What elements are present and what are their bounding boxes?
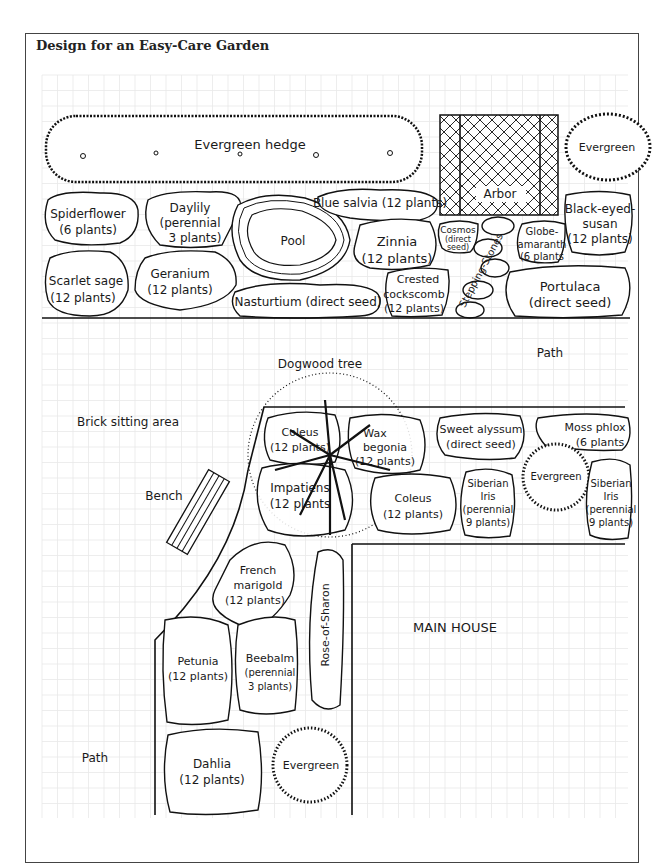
svg-text:Wax: Wax [363, 427, 387, 440]
evergreen-shrub-middle: Evergreen [523, 444, 589, 510]
bed-zinnia: Zinnia (12 plants) [354, 219, 436, 269]
svg-text:(12 plants): (12 plants) [179, 773, 244, 787]
svg-text:(12 plants): (12 plants) [362, 251, 433, 266]
svg-text:Globe-: Globe- [526, 226, 559, 237]
svg-text:Iris: Iris [480, 491, 495, 502]
bed-globe-amaranth: Globe- amaranth (6 plants [517, 221, 566, 263]
evergreen-shrub-bottom: Evergreen [273, 728, 347, 802]
svg-text:seed): seed) [447, 243, 469, 252]
svg-text:(direct seed): (direct seed) [446, 438, 516, 451]
svg-text:Zinnia: Zinnia [377, 234, 418, 249]
svg-text:Coleus: Coleus [395, 492, 432, 505]
svg-text:Siberian: Siberian [591, 478, 632, 489]
svg-text:9 plants): 9 plants) [589, 517, 633, 528]
svg-text:susan: susan [582, 217, 617, 231]
main-house-label: MAIN HOUSE [413, 620, 497, 635]
svg-text:Moss phlox: Moss phlox [564, 421, 626, 434]
svg-text:(12 plants): (12 plants) [383, 508, 443, 521]
svg-text:(perennial: (perennial [463, 504, 514, 515]
bed-geranium: Geranium (12 plants) [135, 251, 236, 310]
evergreen-shrub-top: Evergreen [566, 114, 650, 180]
svg-text:Crested: Crested [397, 273, 440, 286]
svg-text:(6 plants: (6 plants [576, 436, 625, 449]
bench [167, 470, 230, 555]
bed-nasturtium: Nasturtium (direct seed) [232, 284, 381, 318]
arbor-label: Arbor [483, 187, 516, 201]
svg-text:(direct seed): (direct seed) [529, 295, 611, 310]
svg-text:Blue salvia (12 plants): Blue salvia (12 plants) [313, 196, 447, 210]
bed-scarlet-sage: Scarlet sage (12 plants) [45, 251, 128, 316]
svg-text:(12 plants): (12 plants) [50, 291, 115, 305]
svg-text:Beebalm: Beebalm [246, 652, 295, 665]
svg-text:(perennial: (perennial [245, 667, 296, 678]
svg-text:Geranium: Geranium [150, 267, 209, 281]
svg-text:Pool: Pool [281, 234, 306, 248]
svg-text:(12 plants): (12 plants) [147, 283, 212, 297]
svg-text:(12 plants): (12 plants) [567, 232, 632, 246]
bed-cosmos: Cosmos (direct seed) [438, 221, 478, 253]
svg-text:Daylily: Daylily [170, 201, 211, 215]
svg-text:Petunia: Petunia [177, 655, 218, 668]
bed-border-left [248, 407, 264, 470]
svg-text:(12 plants): (12 plants) [355, 455, 415, 468]
svg-text:3 plants): 3 plants) [248, 681, 292, 692]
bed-wax-begonia: Wax begonia (12 plants) [348, 414, 425, 473]
svg-text:Nasturtium (direct seed): Nasturtium (direct seed) [234, 295, 381, 309]
svg-text:marigold: marigold [234, 579, 283, 592]
bed-spiderflower: Spiderflower (6 plants) [45, 192, 138, 245]
svg-text:3 plants): 3 plants) [169, 231, 222, 245]
bed-siberian-iris-1: Siberian Iris (perennial 9 plants) [461, 469, 515, 538]
svg-text:Evergreen: Evergreen [530, 471, 581, 482]
svg-text:Scarlet sage: Scarlet sage [49, 274, 123, 288]
svg-text:Dahlia: Dahlia [193, 757, 231, 771]
svg-text:(12 plants): (12 plants) [168, 670, 228, 683]
svg-text:Black-eyed-: Black-eyed- [565, 202, 636, 216]
svg-text:Evergreen: Evergreen [283, 759, 339, 772]
bed-sweet-alyssum: Sweet alyssum (direct seed) [437, 413, 524, 459]
bed-black-eyed-susan: Black-eyed- susan (12 plants) [565, 192, 636, 256]
bed-dahlia: Dahlia (12 plants) [164, 729, 261, 814]
bed-siberian-iris-2: Siberian Iris (perennial 9 plants) [586, 459, 637, 539]
bed-petunia: Petunia (12 plants) [163, 617, 232, 725]
svg-text:(perennial: (perennial [586, 504, 637, 515]
svg-text:Rose-of-Sharon: Rose-of-Sharon [319, 583, 332, 666]
svg-text:Spiderflower: Spiderflower [50, 207, 126, 221]
svg-text:begonia: begonia [363, 441, 407, 454]
dogwood-label: Dogwood tree [278, 357, 362, 371]
svg-text:amaranth: amaranth [518, 239, 567, 250]
bed-daylily: Daylily (perennial 3 plants) [146, 192, 241, 248]
svg-text:Evergreen: Evergreen [579, 141, 635, 154]
brick-sitting-area-label: Brick sitting area [77, 415, 179, 429]
svg-text:(12 plants): (12 plants) [270, 441, 330, 454]
bench-label: Bench [145, 489, 182, 503]
svg-text:(12 plants: (12 plants [270, 497, 331, 511]
svg-text:French: French [240, 564, 277, 577]
arbor: Arbor [440, 115, 558, 215]
bed-crested-cockscomb: Crested cockscomb (12 plants) [383, 268, 449, 317]
svg-text:Portulaca: Portulaca [540, 279, 601, 294]
svg-text:cockscomb: cockscomb [383, 288, 444, 301]
svg-text:Sweet alyssum: Sweet alyssum [440, 423, 523, 436]
svg-text:(6 plants): (6 plants) [59, 223, 117, 237]
svg-text:9 plants): 9 plants) [466, 517, 510, 528]
hedge-label: Evergreen hedge [194, 137, 305, 152]
path-label-bottom: Path [82, 751, 108, 765]
svg-text:(6 plants: (6 plants [520, 251, 564, 262]
svg-text:(perennial: (perennial [160, 216, 221, 230]
svg-text:Impatiens: Impatiens [270, 481, 329, 495]
svg-text:(12 plants): (12 plants) [225, 594, 285, 607]
svg-text:(12 plants): (12 plants) [384, 302, 444, 315]
bed-portulaca: Portulaca (direct seed) [506, 266, 630, 318]
path-label-top: Path [537, 346, 563, 360]
svg-text:Cosmos: Cosmos [440, 225, 476, 235]
evergreen-hedge: Evergreen hedge [46, 116, 422, 182]
bed-coleus-2: Coleus (12 plants) [371, 474, 456, 534]
bed-rose-of-sharon: Rose-of-Sharon [310, 550, 344, 709]
bed-french-marigold: French marigold (12 plants) [213, 542, 294, 627]
bed-beebalm: Beebalm (perennial 3 plants) [235, 617, 297, 714]
svg-text:Iris: Iris [603, 491, 618, 502]
svg-text:Siberian: Siberian [468, 478, 509, 489]
